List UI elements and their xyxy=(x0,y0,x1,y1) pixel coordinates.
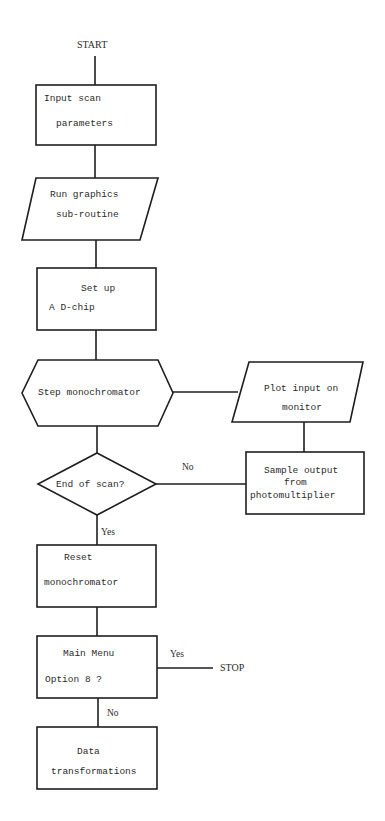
node-label: Run graphics xyxy=(50,189,118,201)
edge-label-yes: Yes xyxy=(101,526,115,538)
node-label: monitor xyxy=(282,402,322,414)
node-label: photomultiplier xyxy=(250,490,336,502)
node-label: Sample output xyxy=(264,465,338,477)
node-label: transformations xyxy=(51,766,137,778)
stop-terminal: STOP xyxy=(220,662,244,673)
node-label: Reset xyxy=(64,552,93,564)
node-label: Set up xyxy=(81,283,115,295)
node-label: Option 8 ? xyxy=(45,674,102,686)
node-label: End of scan? xyxy=(56,479,124,491)
node-label: Plot input on xyxy=(264,383,338,395)
node-label: parameters xyxy=(56,118,113,130)
node-label: sub-routine xyxy=(56,209,119,221)
node-label: Input scan xyxy=(44,93,101,105)
node-label: Data xyxy=(77,746,100,758)
edge-label-no: No xyxy=(182,461,194,473)
edge-label-no: No xyxy=(107,707,119,719)
node-label: A D-chip xyxy=(49,302,95,314)
start-terminal: START xyxy=(77,39,107,50)
node-label: from xyxy=(284,477,307,489)
node-label: Main Menu xyxy=(63,648,114,660)
node-label: Step monochromator xyxy=(38,387,141,399)
node-label: monochromator xyxy=(44,577,118,589)
edge-label-yes: Yes xyxy=(170,648,184,660)
